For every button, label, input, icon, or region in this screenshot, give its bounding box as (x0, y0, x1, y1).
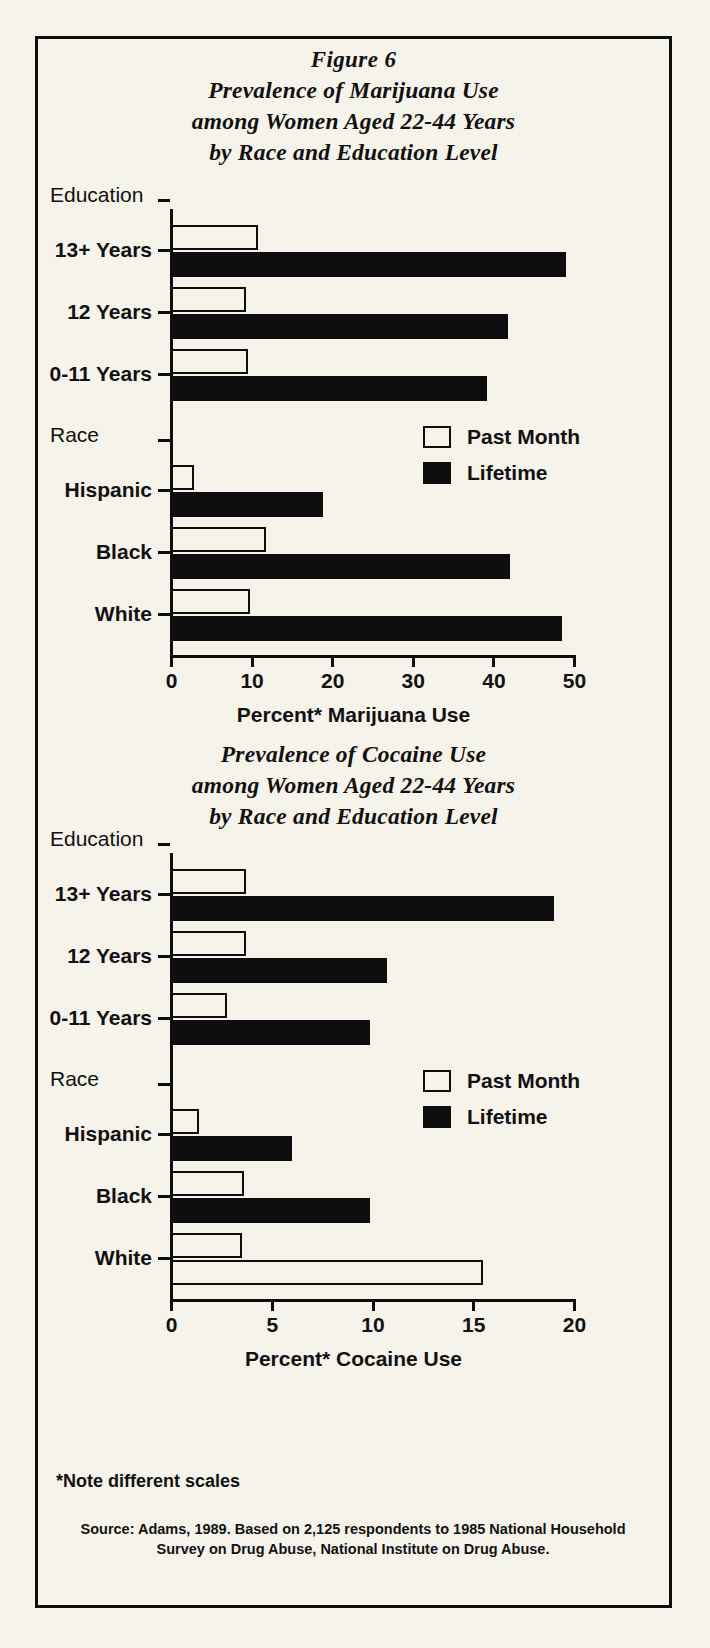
category-label: 12 Years (38, 300, 152, 324)
bar-past-month (171, 465, 194, 490)
x-tick-label: 0 (166, 669, 178, 693)
group-label-race: Race (50, 1067, 99, 1091)
x-tick-label: 20 (563, 1313, 586, 1337)
y-tick (158, 1195, 170, 1198)
group-tick (158, 199, 170, 202)
group-tick (158, 439, 170, 442)
category-label: 13+ Years (38, 882, 152, 906)
bar-lifetime (171, 1136, 292, 1161)
legend-label-lifetime: Lifetime (467, 1105, 548, 1129)
category-label: White (38, 602, 152, 626)
source-line-1: Source: Adams, 1989. Based on 2,125 resp… (81, 1521, 626, 1537)
x-tick-label: 0 (166, 1313, 178, 1337)
x-tick-label: 30 (402, 669, 425, 693)
category-label: Hispanic (38, 1122, 152, 1146)
bar-past-month (171, 869, 246, 894)
x-tick-label: 50 (563, 669, 586, 693)
legend-swatch-lifetime (423, 462, 451, 484)
x-tick (573, 658, 576, 667)
x-axis (170, 655, 576, 658)
x-tick-label: 40 (482, 669, 505, 693)
bar-past-month (171, 931, 246, 956)
group-label-race: Race (50, 423, 99, 447)
source-line-2: Survey on Drug Abuse, National Institute… (48, 1539, 658, 1559)
bar-lifetime (171, 958, 387, 983)
bar-past-month (171, 1233, 242, 1258)
y-tick (158, 613, 170, 616)
bar-lifetime (171, 1020, 370, 1045)
x-tick-label: 15 (462, 1313, 485, 1337)
legend-item-past-month: Past Month (423, 425, 580, 449)
y-tick (158, 249, 170, 252)
cocaine-title-line-2: among Women Aged 22-44 Years (38, 770, 669, 801)
bar-lifetime (171, 252, 566, 277)
bar-lifetime (171, 314, 508, 339)
bar-past-month (171, 1109, 199, 1134)
bar-lifetime (171, 376, 487, 401)
bar-past-month (171, 287, 246, 312)
legend-item-lifetime: Lifetime (423, 1105, 580, 1129)
legend-item-lifetime: Lifetime (423, 461, 580, 485)
x-tick (271, 1302, 274, 1311)
x-tick (251, 658, 254, 667)
y-tick (158, 489, 170, 492)
x-tick-label: 10 (361, 1313, 384, 1337)
marijuana-bar-chart: 01020304050EducationRace13+ Years12 Year… (38, 191, 669, 703)
source-note: Source: Adams, 1989. Based on 2,125 resp… (48, 1519, 658, 1559)
legend-label-past-month: Past Month (467, 425, 580, 449)
x-axis-title: Percent* Marijuana Use (38, 703, 669, 727)
bar-lifetime (171, 1198, 370, 1223)
x-tick-label: 5 (266, 1313, 278, 1337)
bar-past-month (171, 1171, 244, 1196)
legend-item-past-month: Past Month (423, 1069, 580, 1093)
x-axis-title: Percent* Cocaine Use (38, 1347, 669, 1371)
figure-title-block: Figure 6 Prevalence of Marijuana Use amo… (38, 39, 669, 168)
x-tick-label: 20 (321, 669, 344, 693)
figure-title-line-1: Prevalence of Marijuana Use (38, 75, 669, 106)
bar-lifetime (171, 616, 562, 641)
bar-past-month (171, 993, 227, 1018)
category-label: Black (38, 1184, 152, 1208)
figure-number: Figure 6 (38, 45, 669, 75)
x-tick (412, 658, 415, 667)
category-label: 0-11 Years (38, 1006, 152, 1030)
y-tick (158, 1257, 170, 1260)
legend-swatch-lifetime (423, 1106, 451, 1128)
x-tick (331, 658, 334, 667)
x-tick (492, 658, 495, 667)
y-tick (158, 311, 170, 314)
chart-legend: Past MonthLifetime (423, 425, 580, 497)
category-label: 0-11 Years (38, 362, 152, 386)
y-tick (158, 893, 170, 896)
category-label: 12 Years (38, 944, 152, 968)
legend-label-lifetime: Lifetime (467, 461, 548, 485)
bar-lifetime (171, 896, 554, 921)
scales-note: *Note different scales (56, 1471, 240, 1492)
figure-frame: Figure 6 Prevalence of Marijuana Use amo… (35, 36, 672, 1608)
x-tick (170, 658, 173, 667)
cocaine-title-line-1: Prevalence of Cocaine Use (38, 739, 669, 770)
y-tick (158, 1133, 170, 1136)
cocaine-title-block: Prevalence of Cocaine Use among Women Ag… (38, 733, 669, 832)
x-tick (372, 1302, 375, 1311)
cocaine-bar-chart: 05101520EducationRace13+ Years12 Years0-… (38, 835, 669, 1347)
x-tick-label: 10 (240, 669, 263, 693)
group-label-education: Education (50, 183, 143, 207)
bar-lifetime (171, 1260, 483, 1285)
y-tick (158, 551, 170, 554)
group-tick (158, 1083, 170, 1086)
chart-legend: Past MonthLifetime (423, 1069, 580, 1141)
category-label: White (38, 1246, 152, 1270)
bar-past-month (171, 527, 266, 552)
figure-title-line-2: among Women Aged 22-44 Years (38, 106, 669, 137)
category-label: Hispanic (38, 478, 152, 502)
group-tick (158, 843, 170, 846)
category-label: Black (38, 540, 152, 564)
y-tick (158, 955, 170, 958)
x-tick (472, 1302, 475, 1311)
legend-label-past-month: Past Month (467, 1069, 580, 1093)
figure-title-line-3: by Race and Education Level (38, 137, 669, 168)
x-tick (170, 1302, 173, 1311)
x-tick (573, 1302, 576, 1311)
group-label-education: Education (50, 827, 143, 851)
